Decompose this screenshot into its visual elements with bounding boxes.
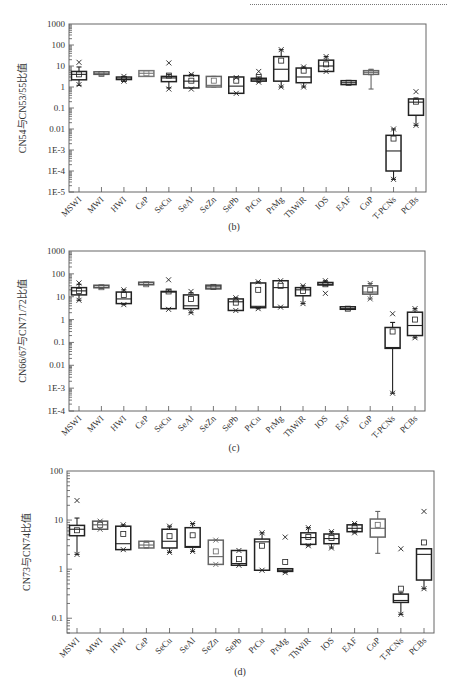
outlier-x-marker: [77, 60, 82, 65]
x-category-label: MWI: [85, 413, 106, 434]
x-category-label: IOS: [312, 413, 329, 430]
y-tick-label: 1E-3: [48, 383, 66, 393]
outlier-x-marker: [398, 546, 403, 551]
y-tick-label: 1000: [47, 246, 66, 256]
x-category-label: T-PCNs: [371, 194, 399, 222]
box-pcbs: [408, 306, 423, 340]
y-tick-label: 10: [56, 61, 66, 71]
box-eaf: [341, 80, 356, 85]
x-category-label: PCBs: [399, 194, 421, 216]
y-tick-label: 1E-3: [48, 145, 66, 155]
box-prcu: [251, 279, 266, 311]
iqr-box: [417, 549, 432, 580]
x-category-label: IOS: [319, 635, 336, 652]
box-t-pcns: [386, 127, 401, 182]
x-category-label: SeZn: [197, 413, 218, 434]
box-sezn: [208, 538, 223, 567]
x-category-label: SePb: [220, 413, 241, 434]
y-tick-label: 10: [56, 292, 66, 302]
box-cop: [364, 69, 379, 89]
x-category-label: SeZn: [200, 635, 221, 656]
box-thwir: [301, 525, 316, 548]
y-tick-label: 0.1: [54, 337, 65, 347]
box-ios: [324, 529, 339, 550]
x-category-label: SePb: [223, 635, 244, 656]
iqr-box: [273, 281, 288, 307]
box-sezn: [206, 284, 221, 289]
x-category-label: HWI: [108, 635, 128, 655]
box-cop: [370, 511, 385, 553]
box-ios: [319, 54, 334, 74]
x-category-label: T-PCNs: [378, 635, 406, 663]
caption-d: (d): [234, 666, 246, 677]
box-t-pcns: [393, 546, 408, 617]
outlier-x-marker: [323, 291, 328, 296]
iqr-box: [70, 525, 85, 535]
box-prmg: [274, 47, 289, 89]
mean-marker: [283, 559, 288, 564]
box-prmg: [273, 278, 288, 309]
x-category-label: HWI: [108, 413, 128, 433]
box-sepb: [231, 548, 246, 568]
y-tick-label: 1E-5: [48, 187, 66, 197]
y-axis-label: CN54与CN53/55比值: [16, 63, 28, 154]
boxplot-chart-c: 10001001010.10.011E-31E-4CN66/67与CN71/72…: [0, 230, 452, 450]
outlier-x-marker: [390, 311, 395, 316]
x-category-label: ThWiR: [287, 635, 313, 661]
plot-frame: [69, 24, 426, 192]
iqr-box: [72, 71, 87, 79]
iqr-box: [251, 283, 266, 308]
box-secu: [161, 277, 176, 312]
plot-frame: [69, 251, 425, 411]
x-category-label: MSWI: [59, 413, 83, 437]
box-hwi: [116, 287, 131, 307]
x-category-label: SeCu: [153, 635, 174, 656]
x-category-label: SeAl: [177, 635, 197, 655]
x-category-label: MSWI: [57, 635, 81, 659]
x-category-label: HWI: [109, 194, 129, 214]
box-eaf: [340, 306, 355, 311]
iqr-box: [393, 594, 408, 602]
iqr-box: [229, 77, 244, 93]
iqr-box: [184, 76, 199, 88]
mean-marker: [398, 586, 403, 591]
box-pcbs: [409, 89, 424, 128]
x-category-label: MWI: [84, 635, 105, 656]
x-category-label: IOS: [313, 194, 330, 211]
box-ios: [318, 278, 333, 296]
box-seal: [184, 72, 199, 92]
box-seal: [184, 289, 199, 315]
iqr-box: [296, 68, 311, 83]
x-category-label: PrCu: [246, 635, 267, 656]
iqr-box: [386, 135, 401, 171]
box-cep: [139, 71, 154, 77]
x-category-label: CoP: [357, 194, 375, 212]
iqr-box: [385, 327, 400, 348]
x-category-label: MWI: [85, 194, 106, 215]
box-secu: [161, 60, 176, 91]
x-category-label: SeZn: [198, 194, 219, 215]
x-category-label: EAF: [334, 194, 353, 213]
box-mwi: [94, 285, 109, 290]
x-category-label: PCBs: [398, 413, 420, 435]
box-hwi: [116, 522, 131, 552]
box-cop: [363, 281, 378, 301]
box-thwir: [296, 64, 311, 89]
iqr-box: [161, 76, 176, 81]
iqr-box: [208, 540, 223, 564]
box-prcu: [255, 530, 270, 572]
box-cep: [139, 282, 154, 287]
outlier-x-marker: [166, 60, 171, 65]
x-category-label: SeAl: [176, 194, 196, 214]
box-mswi: [72, 60, 87, 87]
y-tick-label: 1: [61, 82, 66, 92]
box-t-pcns: [385, 311, 400, 395]
x-category-label: CeP: [133, 413, 151, 431]
iqr-box: [116, 292, 131, 304]
box-mswi: [72, 280, 87, 302]
x-category-label: ThWiR: [282, 194, 308, 220]
iqr-box: [408, 312, 423, 335]
y-tick-label: 100: [52, 269, 66, 279]
outlier-x-marker: [414, 89, 419, 94]
x-category-label: CoP: [357, 413, 375, 431]
